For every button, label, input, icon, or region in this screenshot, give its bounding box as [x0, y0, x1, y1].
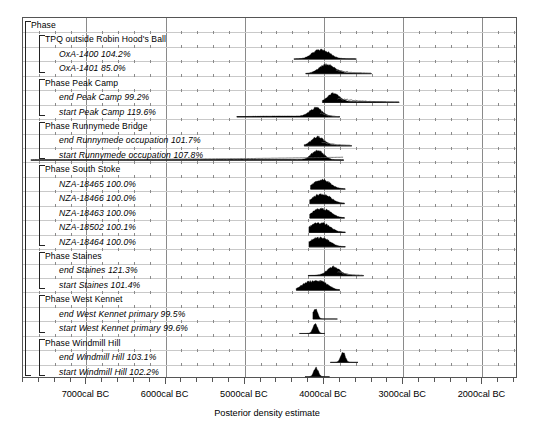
axis-tick-minor	[497, 378, 498, 382]
axis-tick-minor	[434, 378, 435, 382]
axis-tick-label: 6000cal BC	[141, 389, 189, 399]
axis-tick-minor	[101, 378, 102, 382]
axis-tick-minor	[54, 378, 55, 382]
axis-tick-minor	[196, 378, 197, 382]
axis-tick-label: 4000cal BC	[299, 389, 347, 399]
phase-bracket	[39, 339, 45, 376]
axis-tick-minor	[450, 378, 451, 382]
axis-tick-minor	[117, 378, 118, 382]
phase-bracket	[39, 122, 45, 159]
axis-tick-minor	[291, 378, 292, 382]
axis-tick-minor	[133, 378, 134, 382]
axis-tick-minor	[355, 378, 356, 382]
axis-tick-minor	[38, 378, 39, 382]
axis-tick-label: 2000cal BC	[458, 389, 506, 399]
axis-tick-minor	[260, 378, 261, 382]
axis-tick-major	[323, 378, 324, 384]
axis-tick-minor	[228, 378, 229, 382]
phase-bracket	[25, 21, 31, 376]
axis-tick-major	[481, 378, 482, 384]
axis-tick-minor	[386, 378, 387, 382]
phase-brackets	[23, 18, 516, 377]
axis-tick-minor	[22, 378, 23, 382]
phase-bracket	[39, 295, 45, 332]
x-axis-ticks	[22, 378, 517, 385]
axis-tick-label: 5000cal BC	[220, 389, 268, 399]
axis-tick-minor	[149, 378, 150, 382]
axis-tick-label: 7000cal BC	[62, 389, 110, 399]
axis-tick-minor	[180, 378, 181, 382]
axis-tick-minor	[307, 378, 308, 382]
axis-tick-minor	[70, 378, 71, 382]
x-axis-title: Posterior density estimate	[0, 408, 534, 418]
axis-tick-major	[85, 378, 86, 384]
axis-tick-major	[402, 378, 403, 384]
axis-tick-major	[165, 378, 166, 384]
axis-tick-label: 3000cal BC	[378, 389, 426, 399]
axis-tick-minor	[339, 378, 340, 382]
axis-tick-minor	[212, 378, 213, 382]
axis-tick-minor	[466, 378, 467, 382]
axis-tick-minor	[275, 378, 276, 382]
axis-tick-major	[244, 378, 245, 384]
phase-bracket	[39, 35, 45, 72]
phase-bracket	[39, 165, 45, 246]
plot-frame: PhaseTPQ outside Robin Hood's BallOxA-14…	[22, 17, 517, 378]
axis-tick-minor	[418, 378, 419, 382]
axis-tick-minor	[371, 378, 372, 382]
oxcal-posterior-density-chart: PhaseTPQ outside Robin Hood's BallOxA-14…	[0, 0, 534, 434]
phase-bracket	[39, 252, 45, 289]
phase-bracket	[39, 79, 45, 116]
axis-tick-minor	[513, 378, 514, 382]
